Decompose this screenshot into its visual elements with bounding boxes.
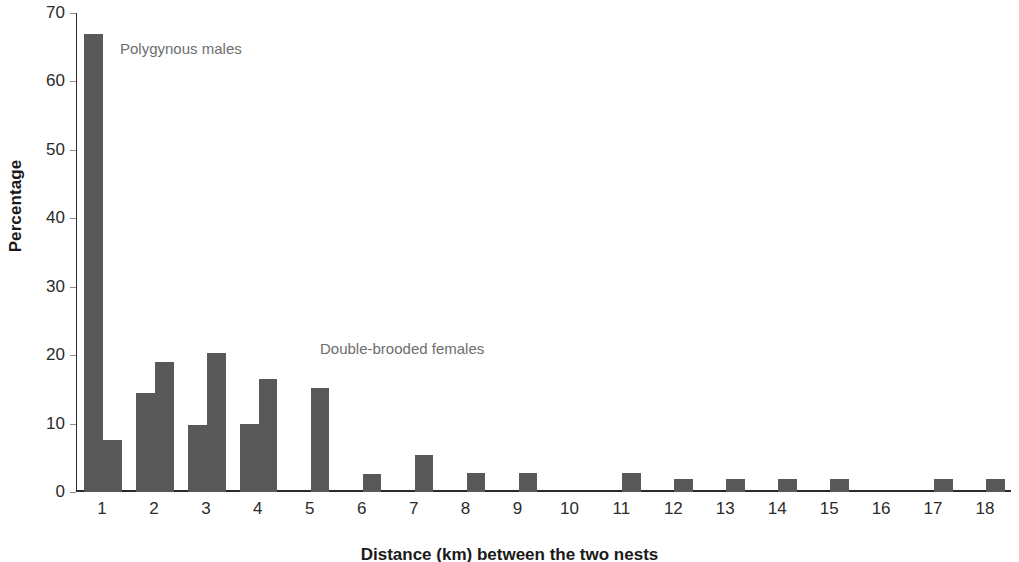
x-tick-label: 2 [149,499,158,519]
bar [188,425,207,492]
x-tick-label: 3 [201,499,210,519]
y-tick-label: 30 [46,277,65,297]
bar [778,479,797,492]
bar [986,479,1005,492]
x-tick-label: 8 [461,499,470,519]
x-tick-label: 18 [976,499,995,519]
y-tick-label: 10 [46,414,65,434]
y-tick-label: 0 [56,482,65,502]
x-tick-label: 5 [305,499,314,519]
x-tick-label: 16 [872,499,891,519]
plot-area: 010203040506070 [76,13,1011,492]
x-axis-title: Distance (km) between the two nests [0,545,1019,562]
x-tick-label: 4 [253,499,262,519]
bar [519,473,538,492]
bar [934,479,953,492]
bar [240,424,259,492]
x-tick-label: 7 [409,499,418,519]
y-tick-label: 70 [46,3,65,23]
bar [622,473,641,492]
x-tick-label: 10 [560,499,579,519]
bar [726,479,745,492]
bar [311,388,330,492]
x-tick-label: 9 [513,499,522,519]
bar [467,473,486,492]
bar [830,479,849,492]
x-tick-label: 11 [613,499,631,519]
y-tick-label: 50 [46,140,65,160]
bar [674,479,693,492]
x-tick-label: 13 [716,499,735,519]
bar [363,474,382,492]
y-tick-label: 60 [46,71,65,91]
bar [84,34,103,492]
x-tick-label: 1 [97,499,106,519]
y-tick-label: 40 [46,208,65,228]
x-tick-label: 12 [664,499,683,519]
x-axis-ticks: 123456789101112131415161718 [76,499,1011,529]
y-axis-title: Percentage [6,156,26,256]
bar-chart-figure: Percentage 010203040506070 1234567891011… [0,0,1019,562]
bar [207,353,226,492]
y-tick-mark [70,492,76,493]
x-tick-label: 6 [357,499,366,519]
annotation-double-brooded-females: Double-brooded females [320,340,484,357]
annotation-polygynous-males: Polygynous males [120,40,242,57]
x-tick-label: 14 [768,499,787,519]
bar [415,455,434,492]
x-tick-label: 15 [820,499,839,519]
bar [155,362,174,492]
bar [103,440,122,492]
bar [259,379,278,492]
bars-container [76,13,1011,492]
bar [136,393,155,492]
y-tick-label: 20 [46,345,65,365]
x-tick-label: 17 [924,499,943,519]
